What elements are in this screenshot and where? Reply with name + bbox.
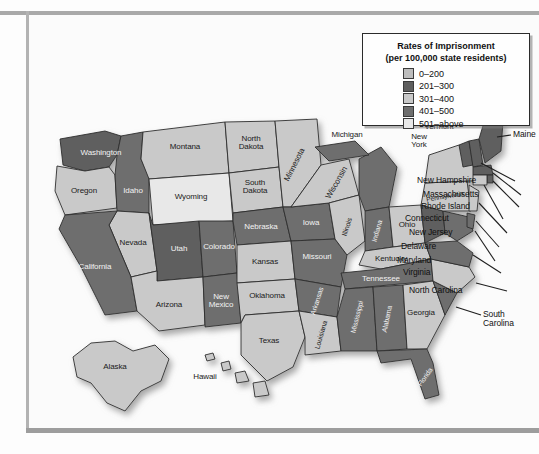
legend-items: 0–200 201–300 301–400 401–500 501–above bbox=[363, 68, 529, 129]
map-callout-delaware: Delaware bbox=[401, 242, 436, 251]
legend-swatch-301-400 bbox=[403, 93, 414, 104]
map-label-north-dakota: North Dakota bbox=[239, 135, 264, 152]
map-callout-new-hampshire: New Hampshire bbox=[417, 176, 476, 185]
legend-label-301-400: 301–400 bbox=[419, 94, 454, 104]
legend-swatch-201-300 bbox=[403, 81, 414, 92]
map-legend: Rates of Imprisonment (per 100,000 state… bbox=[362, 33, 530, 126]
map-label-new-mexico: New Mexico bbox=[209, 293, 234, 310]
map-label-texas: Texas bbox=[259, 337, 279, 345]
legend-label-0-200: 0–200 bbox=[419, 69, 444, 79]
state-texas bbox=[241, 311, 305, 381]
legend-item-1: 201–300 bbox=[403, 81, 529, 92]
map-label-tennessee: Tennessee bbox=[362, 275, 400, 283]
legend-item-4: 501–above bbox=[403, 118, 529, 129]
map-callout-maryland: Maryland bbox=[397, 256, 431, 265]
legend-item-2: 301–400 bbox=[403, 93, 529, 104]
map-callout-maine: Maine bbox=[513, 130, 536, 139]
map-label-nebraska: Nebraska bbox=[244, 223, 277, 231]
legend-swatch-401-500 bbox=[403, 106, 414, 117]
map-callout-new-jersey: New Jersey bbox=[409, 228, 452, 237]
leader-south-carolina bbox=[456, 307, 481, 315]
map-label-washington: Washington bbox=[81, 149, 122, 157]
map-label-oklahoma: Oklahoma bbox=[249, 292, 285, 300]
map-callout-virginia: Virginia bbox=[403, 268, 430, 277]
legend-title-line1: Rates of Imprisonment bbox=[363, 40, 529, 52]
map-callout-south-carolina: South Carolina bbox=[483, 310, 514, 328]
legend-title-line2: (per 100,000 state residents) bbox=[363, 52, 529, 64]
map-label-south-dakota: South Dakota bbox=[243, 179, 268, 196]
map-label-colorado: Colorado bbox=[203, 243, 235, 251]
state-hawaii-3 bbox=[235, 371, 249, 383]
map-label-california: California bbox=[79, 263, 112, 271]
map-label-missouri: Missouri bbox=[303, 253, 332, 261]
leader-connecticut bbox=[484, 185, 503, 219]
state-delaware bbox=[467, 213, 475, 229]
state-michigan bbox=[359, 147, 397, 211]
legend-label-201-300: 201–300 bbox=[419, 81, 454, 91]
map-label-alaska: Alaska bbox=[103, 363, 126, 371]
map-label-montana: Montana bbox=[170, 143, 200, 151]
map-label-utah: Utah bbox=[171, 245, 188, 253]
leader-maryland bbox=[475, 231, 495, 261]
leader-delaware bbox=[476, 221, 499, 247]
map-label-iowa: Iowa bbox=[303, 219, 320, 227]
state-hawaii-2 bbox=[221, 361, 231, 371]
state-hawaii-1 bbox=[205, 353, 215, 361]
legend-label-501-above: 501–above bbox=[419, 119, 464, 129]
book-page: Washington Oregon Idaho Montana Wyoming … bbox=[0, 0, 539, 454]
map-callout-north-carolina: North Carolina bbox=[409, 286, 462, 295]
map-label-wyoming: Wyoming bbox=[175, 193, 208, 201]
legend-label-401-500: 401–500 bbox=[419, 106, 454, 116]
map-label-arizona: Arizona bbox=[156, 301, 182, 309]
page-rule-bottom bbox=[26, 428, 539, 433]
map-label-michigan: Michigan bbox=[331, 131, 362, 139]
map-callout-connecticut: Connecticut bbox=[405, 214, 449, 223]
map-callout-rhode-island: Rhode Island bbox=[421, 202, 470, 211]
map-label-georgia: Georgia bbox=[407, 309, 435, 317]
map-figure: Washington Oregon Idaho Montana Wyoming … bbox=[29, 15, 539, 428]
map-label-new-york: New York bbox=[411, 133, 427, 150]
leader-virginia bbox=[473, 255, 501, 273]
legend-swatch-501-above bbox=[403, 118, 414, 129]
map-label-kansas: Kansas bbox=[252, 258, 278, 266]
map-label-hawaii: Hawaii bbox=[193, 373, 216, 381]
legend-item-3: 401–500 bbox=[403, 106, 529, 117]
legend-swatch-0-200 bbox=[403, 68, 414, 79]
legend-item-0: 0–200 bbox=[403, 68, 529, 79]
leader-north-carolina bbox=[476, 283, 507, 291]
state-rhode-island bbox=[487, 175, 493, 183]
state-massachusetts bbox=[473, 165, 493, 175]
map-label-oregon: Oregon bbox=[71, 187, 97, 195]
leader-rhode-island bbox=[493, 181, 519, 207]
map-label-idaho: Idaho bbox=[123, 187, 143, 195]
state-hawaii-4 bbox=[253, 381, 269, 397]
state-alaska bbox=[73, 341, 169, 411]
map-label-nevada: Nevada bbox=[120, 239, 147, 247]
legend-title: Rates of Imprisonment (per 100,000 state… bbox=[363, 40, 529, 64]
map-callout-massachusetts: Massachusetts bbox=[423, 190, 478, 199]
